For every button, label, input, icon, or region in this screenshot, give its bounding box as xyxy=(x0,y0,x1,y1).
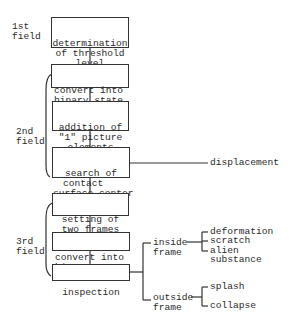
step-determination-threshold: determinationof thresholdlevel xyxy=(51,17,129,48)
step-addition-picture-elements: addition of"1" pictureelements xyxy=(52,101,129,131)
field-label-1st: 1stfield xyxy=(12,22,41,42)
step-convert-binary-1: convert intobinary state xyxy=(51,64,129,88)
step-convert-binary-2: convert intobinary state xyxy=(52,232,130,251)
field-label-3rd: 3rdfield xyxy=(16,237,45,257)
field-label-2nd: 2ndfield xyxy=(16,127,45,147)
step-setting-two-frames: setting oftwo frames xyxy=(52,193,129,216)
defect-collapse: collapse xyxy=(210,301,256,311)
defect-splash: splash xyxy=(210,282,245,292)
defect-substance: substance xyxy=(210,255,262,265)
step-search-contact-center: search ofcontactsurface center xyxy=(52,147,130,178)
step-inspection: inspection xyxy=(52,264,130,281)
branch-outside-frame: outsideframe xyxy=(153,293,193,313)
branch-inside-frame: insideframe xyxy=(153,238,188,258)
output-displacement: displacement xyxy=(210,158,279,168)
